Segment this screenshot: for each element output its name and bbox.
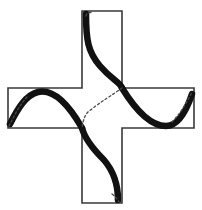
- cross-diagram: [0, 0, 202, 210]
- figure-container: (A): [0, 0, 202, 210]
